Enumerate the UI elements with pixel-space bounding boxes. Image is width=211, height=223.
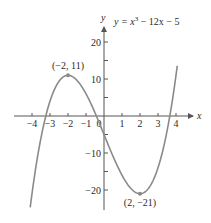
axes [14, 27, 193, 210]
extremum-point [138, 192, 142, 196]
x-ticks: −4−3−2−101234 [27, 113, 179, 129]
x-tick-label: −4 [27, 118, 38, 129]
equation-prefix: y = x [113, 16, 135, 27]
x-tick-label: 2 [138, 118, 143, 129]
y-tick-label: −10 [85, 148, 101, 159]
x-axis-label: x [196, 110, 202, 121]
equation-suffix: − 12x − 5 [138, 16, 179, 27]
point-label: (2, −21) [124, 197, 156, 209]
extremum-point [66, 73, 70, 77]
y-axis-label: y [100, 12, 106, 23]
chart-canvas: −4−3−2−101234 2010−10−20 x y y = x3 − 12… [0, 0, 211, 223]
x-tick-label: 4 [174, 118, 179, 129]
x-tick-label: −2 [63, 118, 74, 129]
y-tick-label: −20 [85, 185, 101, 196]
y-tick-label: 20 [91, 37, 101, 48]
point-label: (−2, 11) [52, 60, 84, 72]
y-tick-label: 10 [91, 74, 101, 85]
x-tick-label: −3 [45, 118, 56, 129]
x-tick-label: 1 [120, 118, 125, 129]
x-tick-label: −1 [81, 118, 92, 129]
x-tick-label: 3 [156, 118, 161, 129]
equation-label: y = x3 − 12x − 5 [113, 15, 179, 27]
